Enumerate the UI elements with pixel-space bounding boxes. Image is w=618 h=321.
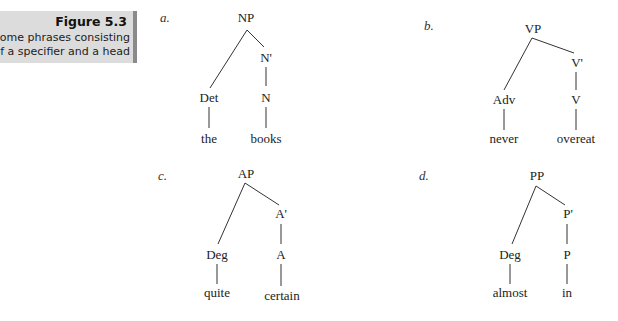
tree-head-node: A [276,247,286,262]
tree-label: d. [419,168,429,183]
tree-head-node: P [563,247,570,262]
tree-a: a. NP N' Det N the books [160,10,282,146]
tree-label: c. [158,168,167,183]
tree-intermediate-node: V' [571,55,583,70]
tree-edge [245,183,279,205]
tree-edge [210,30,247,88]
tree-specifier-word: the [201,131,217,146]
tree-intermediate-node: N' [260,50,272,65]
tree-root-node: VP [525,21,542,36]
tree-head-word: overeat [557,131,596,146]
tree-label: b. [424,18,434,33]
tree-diagrams: a. NP N' Det N the books b. VP V' Adv V … [0,0,618,321]
tree-intermediate-node: A' [275,206,287,221]
tree-intermediate-node: P' [563,206,573,221]
tree-head-word: in [562,285,573,300]
tree-specifier-node: Deg [206,247,228,262]
tree-edge [247,30,264,47]
tree-head-node: V [571,92,581,107]
tree-specifier-node: Adv [493,92,516,107]
tree-edge [536,186,565,205]
tree-edge [218,183,245,244]
tree-specifier-word: quite [204,285,230,300]
tree-specifier-word: almost [493,285,528,300]
tree-root-node: PP [530,168,544,183]
tree-edge [532,38,574,53]
tree-specifier-word: never [490,131,520,146]
tree-c: c. AP A' Deg A quite certain [158,166,300,303]
tree-edge [512,186,536,244]
tree-label: a. [160,10,170,25]
tree-b: b. VP V' Adv V never overeat [424,18,596,146]
tree-root-node: NP [238,10,255,25]
tree-d: d. PP P' Deg P almost in [419,168,573,300]
tree-head-word: books [250,131,281,146]
tree-head-node: N [261,90,271,105]
tree-edge [504,38,532,90]
tree-specifier-node: Deg [499,247,521,262]
tree-specifier-node: Det [200,90,219,105]
tree-head-word: certain [264,288,300,303]
tree-root-node: AP [238,166,255,181]
